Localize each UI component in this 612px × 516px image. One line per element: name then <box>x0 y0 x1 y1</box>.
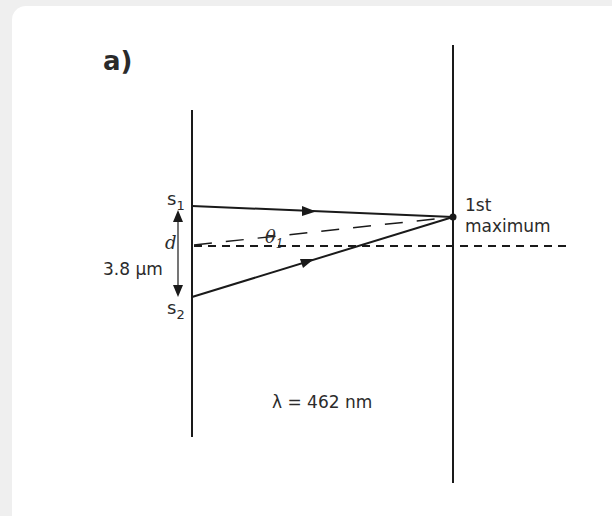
separation-value: 3.8 μm <box>103 259 163 279</box>
angle-label: θ1 <box>265 226 283 251</box>
maximum-label-line2: maximum <box>465 216 551 237</box>
angle-symbol: θ <box>265 226 276 247</box>
ray-s2 <box>192 217 453 297</box>
first-maximum-label: 1st maximum <box>465 195 551 237</box>
ray-s2-arrow-icon <box>300 259 314 268</box>
wavelength-label: λ = 462 nm <box>272 392 372 412</box>
angle-reference-dashed <box>194 217 453 245</box>
angle-subscript: 1 <box>276 237 284 251</box>
source-s2-subscript: 2 <box>176 307 184 322</box>
ray-s1-arrow-icon <box>302 206 316 216</box>
separation-symbol: d <box>165 232 177 253</box>
part-label: a) <box>103 46 132 76</box>
first-maximum-point <box>450 214 457 221</box>
source-s2-letter: s <box>167 297 176 318</box>
source-s1-letter: s <box>167 188 176 209</box>
source-s1-subscript: 1 <box>176 198 184 213</box>
source-s1-label: s1 <box>167 188 185 213</box>
separation-arrow-down-icon <box>173 285 183 297</box>
ray-s1 <box>192 206 453 217</box>
source-s2-label: s2 <box>167 297 185 322</box>
maximum-label-line1: 1st <box>465 195 551 216</box>
